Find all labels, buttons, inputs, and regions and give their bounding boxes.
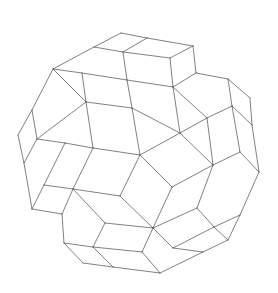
polyhedron-edge [170, 58, 173, 87]
polyhedron-edge [172, 165, 213, 187]
polyhedron-edge [64, 243, 93, 247]
polyhedron-edge [64, 243, 83, 263]
polyhedron-edge [24, 163, 32, 209]
polyhedron-edge [228, 215, 240, 240]
polyhedron-edge [250, 98, 252, 125]
polyhedron-edge [153, 187, 172, 228]
polyhedron-edge [94, 47, 123, 52]
polyhedron-edge [228, 79, 250, 98]
polyhedron-edge [120, 155, 140, 196]
polyhedron-edge [140, 155, 172, 187]
polyhedron-edge [203, 240, 228, 252]
polyhedron-edge [53, 47, 94, 69]
polyhedron-edge [18, 135, 24, 163]
polyhedron-edge [197, 165, 213, 208]
polyhedron-edge [62, 214, 64, 243]
polyhedron-edge [123, 38, 147, 52]
polyhedron-edge [127, 80, 132, 108]
polyhedron-edge [73, 189, 120, 196]
polyhedron-edge [123, 52, 170, 58]
polyhedron-edge [196, 73, 228, 79]
polyhedron-edge [173, 227, 214, 248]
polyhedron-edge [193, 46, 196, 73]
polyhedron-edge [113, 267, 160, 273]
polyhedron-edge [197, 208, 214, 227]
polyhedron-edge [207, 106, 232, 118]
polyhedron-edge [73, 148, 93, 189]
polyhedron-edge [93, 247, 113, 267]
polyhedron-edge [37, 102, 86, 139]
polyhedron-edge [82, 73, 86, 102]
polyhedron-edge [214, 227, 228, 240]
polyhedron-edge [44, 143, 65, 185]
polyhedron-edge [132, 108, 140, 155]
polyhedron-edge [252, 125, 259, 172]
polyhedron-edge [180, 133, 213, 165]
polyhedron-edge [32, 110, 37, 139]
polyhedron-edge [53, 69, 82, 73]
polyhedron-edge [37, 139, 65, 143]
polyhedron-edge [105, 223, 153, 228]
polyhedron-edge [32, 69, 53, 110]
polyhedron-edge [121, 33, 147, 38]
polyhedron-edge [153, 208, 197, 228]
polyhedron-edge [83, 263, 113, 267]
polyhedron-edge [44, 185, 73, 189]
polyhedron-edge [86, 102, 132, 108]
polyhedron-edge [86, 102, 93, 148]
polyhedron-edge [214, 215, 240, 227]
polyhedron-edge [153, 228, 173, 248]
polyhedron-edge [127, 80, 173, 87]
polyhedron-edge [93, 148, 140, 155]
polyhedron-edge [142, 252, 160, 273]
polyhedron-figure [0, 0, 278, 293]
polyhedron-edge [82, 73, 127, 80]
polyhedron-edge [207, 118, 213, 165]
polyhedron-edge [65, 143, 93, 148]
polyhedron-edge [228, 79, 232, 106]
polyhedron-edge [170, 46, 193, 58]
polyhedron-edge [173, 87, 207, 118]
polyhedron-edge [147, 38, 193, 46]
polyhedron-edge [93, 247, 142, 252]
polyhedron-edge [140, 133, 180, 155]
polyhedron-edge [180, 118, 207, 133]
polyhedron-edge [132, 108, 180, 133]
polyhedron-edge [94, 33, 121, 47]
polyhedron-edge [160, 252, 203, 273]
polyhedron-edge [142, 228, 153, 252]
polyhedron-edge [240, 172, 259, 215]
polyhedron-edge [32, 209, 62, 214]
polyhedron-edge [24, 139, 37, 163]
polyhedron-edge [213, 152, 240, 165]
polyhedron-edge [62, 189, 73, 214]
polyhedron-edge [73, 189, 105, 223]
polyhedron-wireframe [0, 0, 278, 293]
polyhedron-edge [53, 69, 86, 102]
polyhedron-edge [173, 248, 203, 252]
polyhedron-edge [173, 87, 180, 133]
polyhedron-edge [18, 110, 32, 135]
polyhedron-edge [120, 196, 153, 228]
polyhedron-edge [93, 223, 105, 247]
polyhedron-edge [123, 52, 127, 80]
polyhedron-edge [173, 73, 196, 87]
polyhedron-edge [32, 185, 44, 209]
